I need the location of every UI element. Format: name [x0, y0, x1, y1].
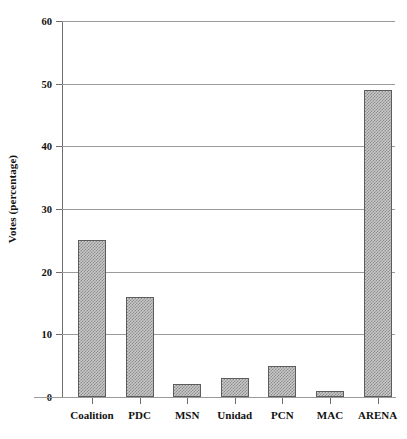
x-axis-tick — [330, 398, 331, 404]
bar — [78, 240, 106, 397]
y-axis-tick-label: 10 — [26, 329, 52, 340]
bar — [221, 378, 249, 397]
gridline — [62, 21, 395, 22]
x-axis-line — [34, 397, 396, 398]
x-axis-label: MSN — [175, 409, 199, 421]
x-axis-label: PDC — [128, 409, 151, 421]
x-axis-label: Unidad — [217, 409, 252, 421]
y-axis-title-label: Votes (percentage) — [6, 154, 18, 242]
gridline — [62, 209, 395, 210]
x-axis-tick — [235, 398, 236, 404]
x-axis-tick — [92, 398, 93, 404]
y-axis-title: Votes (percentage) — [0, 0, 24, 397]
y-axis-tick-label: 20 — [26, 266, 52, 277]
x-axis-label: ARENA — [358, 409, 397, 421]
y-axis-tick-label: 40 — [26, 141, 52, 152]
gridline — [62, 334, 395, 335]
bar-chart: Votes (percentage) 0102030405060 Coaliti… — [0, 0, 407, 439]
x-axis-label: Coalition — [70, 409, 113, 421]
plot-area — [62, 21, 395, 397]
bar — [173, 384, 201, 397]
bar — [268, 366, 296, 397]
gridline — [62, 146, 395, 147]
x-axis-label: PCN — [271, 409, 294, 421]
x-axis-label: MAC — [317, 409, 343, 421]
gridline — [62, 84, 395, 85]
bar — [126, 297, 154, 397]
y-axis-tick-label: 50 — [26, 78, 52, 89]
x-axis-tick — [140, 398, 141, 404]
x-axis-tick — [378, 398, 379, 404]
bar — [364, 90, 392, 397]
y-axis-tick-label: 60 — [26, 16, 52, 27]
gridline — [62, 272, 395, 273]
x-axis-tick — [282, 398, 283, 404]
x-axis-tick — [187, 398, 188, 404]
y-axis-tick-label: 30 — [26, 204, 52, 215]
